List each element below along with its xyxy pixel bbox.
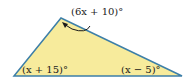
right-angle-label: (x − 5)° xyxy=(121,64,161,75)
top-angle-label: (6x + 10)° xyxy=(71,6,123,17)
left-angle-label: (x + 15)° xyxy=(22,64,68,75)
triangle-diagram: (6x + 10)° (x + 15)° (x − 5)° xyxy=(0,0,196,83)
